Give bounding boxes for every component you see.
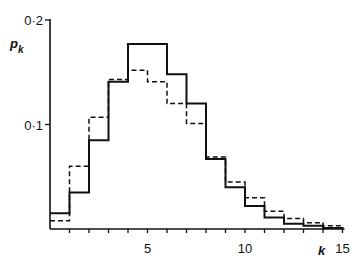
x-tick-label: 15 xyxy=(335,241,349,256)
y-tick-label: 0·1 xyxy=(24,118,43,133)
histogram-solid-series xyxy=(50,44,343,229)
histogram-dashed-series xyxy=(50,70,343,229)
x-tick-label: 5 xyxy=(144,241,151,256)
y-axis-label: pk xyxy=(9,36,24,55)
y-tick-label: 0·2 xyxy=(24,13,43,28)
x-axis-label: k xyxy=(318,243,326,258)
x-tick-label: 10 xyxy=(238,241,252,256)
histogram-chart: 510150·10·2pkk xyxy=(0,0,361,263)
